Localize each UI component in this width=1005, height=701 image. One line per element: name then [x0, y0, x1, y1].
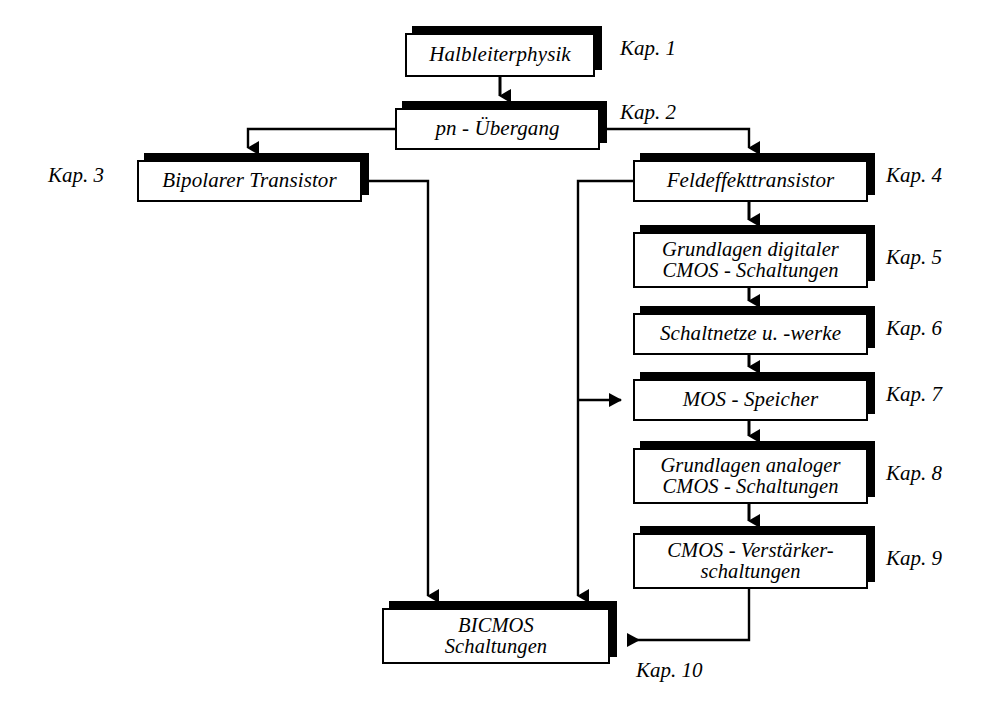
- node-body: MOS - Speicher: [633, 379, 868, 421]
- node-bipolarer-transistor[interactable]: Bipolarer Transistor: [137, 160, 362, 202]
- chapter-label-5: Kap. 5: [886, 245, 942, 270]
- node-label: Grundlagen digitaler CMOS - Schaltungen: [656, 239, 845, 282]
- node-label: Bipolarer Transistor: [156, 170, 343, 191]
- node-pn-uebergang[interactable]: pn - Übergang: [395, 108, 600, 150]
- node-body: BICMOS Schaltungen: [382, 608, 610, 664]
- node-label: MOS - Speicher: [677, 389, 825, 410]
- node-body: pn - Übergang: [395, 108, 600, 150]
- node-bicmos-schaltungen[interactable]: BICMOS Schaltungen: [382, 608, 610, 664]
- node-label: CMOS - Verstärker- schaltungen: [661, 540, 840, 583]
- node-feldeffekttransistor[interactable]: Feldeffekttransistor: [633, 160, 868, 202]
- node-body: Halbleiterphysik: [405, 33, 595, 77]
- node-halbleiterphysik[interactable]: Halbleiterphysik: [405, 33, 595, 77]
- node-cmos-verstaerkerschaltungen[interactable]: CMOS - Verstärker- schaltungen: [633, 533, 868, 589]
- node-mos-speicher[interactable]: MOS - Speicher: [633, 379, 868, 421]
- node-body: Feldeffekttransistor: [633, 160, 868, 202]
- node-body: CMOS - Verstärker- schaltungen: [633, 533, 868, 589]
- node-label: BICMOS Schaltungen: [439, 615, 553, 658]
- node-grundlagen-digitaler-cmos[interactable]: Grundlagen digitaler CMOS - Schaltungen: [633, 232, 868, 288]
- flowchart-canvas: Halbleiterphysik pn - Übergang Bipolarer…: [0, 0, 1005, 701]
- chapter-label-1: Kap. 1: [620, 36, 676, 61]
- node-label: Grundlagen analoger CMOS - Schaltungen: [654, 455, 846, 498]
- chapter-label-7: Kap. 7: [886, 382, 942, 407]
- edge-feldeffekt-bus-to-bicmos: [578, 181, 633, 596]
- node-grundlagen-analoger-cmos[interactable]: Grundlagen analoger CMOS - Schaltungen: [633, 448, 868, 504]
- node-label: Feldeffekttransistor: [661, 170, 841, 191]
- chapter-label-2: Kap. 2: [620, 100, 676, 125]
- node-body: Grundlagen digitaler CMOS - Schaltungen: [633, 232, 868, 288]
- edge-pn-to-feldeffekt: [600, 129, 749, 148]
- chapter-label-4: Kap. 4: [886, 163, 942, 188]
- edge-cmos-verstaerker-to-bicmos: [628, 589, 749, 640]
- node-schaltnetze-werke[interactable]: Schaltnetze u. -werke: [633, 313, 868, 355]
- node-label: pn - Übergang: [429, 118, 565, 139]
- node-body: Bipolarer Transistor: [137, 160, 362, 202]
- chapter-label-3: Kap. 3: [48, 163, 104, 188]
- chapter-label-10: Kap. 10: [636, 658, 703, 683]
- edge-pn-to-bipolar: [248, 129, 395, 148]
- node-body: Schaltnetze u. -werke: [633, 313, 868, 355]
- chapter-label-6: Kap. 6: [886, 316, 942, 341]
- node-label: Halbleiterphysik: [423, 44, 577, 65]
- node-body: Grundlagen analoger CMOS - Schaltungen: [633, 448, 868, 504]
- chapter-label-8: Kap. 8: [886, 461, 942, 486]
- edge-bipolar-to-bicmos: [362, 181, 428, 596]
- node-label: Schaltnetze u. -werke: [654, 323, 847, 344]
- chapter-label-9: Kap. 9: [886, 546, 942, 571]
